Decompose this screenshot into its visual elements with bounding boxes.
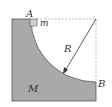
large-block-m: [12, 19, 96, 101]
label-m-large: M: [27, 83, 39, 94]
label-b: B: [97, 78, 105, 89]
label-m-small: m: [40, 18, 49, 28]
diagram-canvas: A m R B M: [0, 0, 112, 107]
label-a: A: [25, 8, 33, 19]
label-r: R: [63, 43, 72, 54]
arrowhead-icon: [63, 67, 68, 74]
small-block-m: [30, 19, 37, 26]
